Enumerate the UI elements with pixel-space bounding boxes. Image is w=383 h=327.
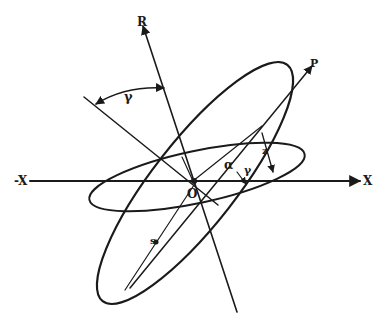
label-x: X (363, 175, 372, 187)
label-r: R (137, 16, 147, 28)
label-s: s (150, 236, 156, 246)
label-origin: O (187, 188, 197, 200)
p-axis (130, 66, 312, 288)
small-ellipse (84, 129, 310, 226)
label-neg-x: -X (14, 175, 27, 187)
label-p: P (310, 58, 318, 69)
label-gamma-top: γ (124, 90, 133, 103)
origin-point (191, 178, 197, 184)
label-z: z (262, 146, 268, 156)
r-axis (143, 26, 237, 312)
inner-line-a (193, 126, 262, 181)
diagram-svg (0, 0, 383, 327)
s-line (125, 182, 196, 290)
label-alpha: α (224, 159, 233, 171)
label-gamma-inner: γ (244, 165, 251, 176)
diagram-canvas: R P -X X O γ α γ z s (0, 0, 383, 327)
